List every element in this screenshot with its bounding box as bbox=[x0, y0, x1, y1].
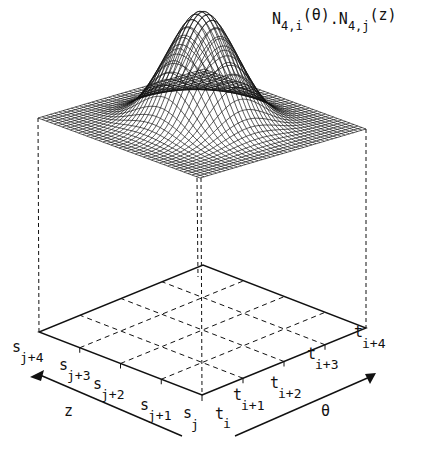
knot-label-t-i2: ti+2 bbox=[270, 374, 302, 401]
z-axis-arrowhead-icon bbox=[30, 370, 44, 381]
z-axis-label: z bbox=[64, 402, 73, 420]
grid-line-theta bbox=[80, 315, 243, 378]
projection-left bbox=[38, 118, 39, 332]
theta-axis-label: θ bbox=[321, 402, 330, 420]
grid-line-z bbox=[80, 281, 244, 348]
z-knot-labels: sj sj+1 sj+2 sj+3 sj+4 bbox=[12, 338, 199, 432]
z-axis-arrow-line bbox=[40, 375, 182, 436]
function-title: N4,i(θ).N4,j(z) bbox=[272, 6, 397, 33]
knot-label-s-j2: sj+2 bbox=[93, 375, 125, 402]
knot-label-s-j1: sj+1 bbox=[140, 396, 172, 423]
knot-label-s-j: sj bbox=[183, 404, 199, 432]
bspline-surface-figure: N4,i(θ).N4,j(z) sj sj+1 sj+2 sj+3 sj+4 t… bbox=[0, 0, 427, 453]
grid-line-z bbox=[161, 312, 325, 379]
knot-label-s-j3: sj+3 bbox=[59, 356, 91, 383]
projection-back bbox=[197, 178, 198, 277]
mesh-line-theta bbox=[63, 111, 225, 171]
projection-lines bbox=[38, 118, 366, 395]
projection-front bbox=[201, 178, 202, 395]
knot-label-t-i: ti bbox=[215, 405, 231, 431]
knot-label-t-i3: ti+3 bbox=[307, 345, 339, 372]
mesh-line-z bbox=[151, 88, 317, 161]
knot-label-t-i1: ti+1 bbox=[233, 386, 265, 413]
basis-surface-mesh bbox=[38, 11, 366, 178]
mesh-line-theta bbox=[183, 75, 345, 135]
mesh-line-theta bbox=[200, 70, 362, 130]
knot-label-t-i4: ti+4 bbox=[354, 323, 386, 351]
mesh-line-theta bbox=[192, 73, 354, 133]
grid-line-z bbox=[121, 297, 285, 364]
knot-label-s-j4: sj+4 bbox=[12, 338, 44, 365]
grid-line-theta bbox=[162, 282, 325, 345]
grid-line-theta bbox=[121, 299, 284, 362]
mesh-line-theta bbox=[88, 85, 250, 163]
